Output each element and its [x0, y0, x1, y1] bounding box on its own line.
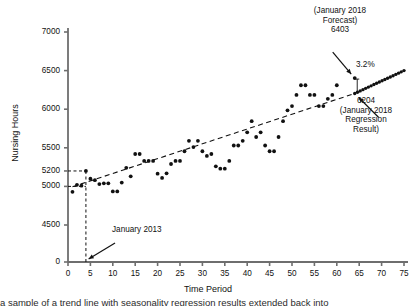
annotation-percent-difference: 3.2% [356, 60, 388, 70]
x-tick-label: 0 [56, 269, 80, 278]
y-tick-label: 6500 [0, 66, 60, 75]
data-point [115, 190, 119, 194]
data-point [259, 130, 263, 134]
data-point [120, 181, 124, 185]
x-tick-label: 30 [190, 269, 214, 278]
x-tick-label: 25 [168, 269, 192, 278]
data-point [295, 93, 299, 97]
data-point [165, 171, 169, 175]
data-point [254, 135, 258, 139]
x-tick-label: 60 [325, 269, 349, 278]
y-tick-label: 5000 [0, 181, 60, 190]
data-point [93, 178, 97, 182]
data-point [138, 152, 142, 156]
y-tick-label: 7000 [0, 27, 60, 36]
x-axis-title: Time Period [0, 284, 416, 294]
x-tick-label: 35 [213, 269, 237, 278]
data-point [308, 93, 312, 97]
data-point [196, 139, 200, 143]
data-point [250, 119, 254, 123]
data-point [335, 83, 339, 87]
chart-canvas [0, 0, 416, 306]
data-point [80, 184, 84, 188]
data-point [102, 181, 106, 185]
trend-line-layer [72, 93, 354, 186]
x-tick-label: 50 [280, 269, 304, 278]
data-point [106, 181, 110, 185]
data-point [156, 172, 160, 176]
data-point [277, 135, 281, 139]
x-tick-label: 40 [235, 269, 259, 278]
data-point [97, 182, 101, 186]
page-caption-text: a sample of a trend line with seasonalit… [0, 297, 416, 306]
data-point [214, 164, 218, 168]
data-point [71, 190, 75, 194]
x-tick-label: 15 [123, 269, 147, 278]
data-point [299, 83, 303, 87]
data-point [205, 154, 209, 158]
data-point [133, 152, 137, 156]
chart-figure: Nursing Hours Time Period (January 2018 … [0, 0, 416, 306]
annotation-january-2013: January 2013 [112, 225, 186, 235]
data-point [192, 145, 196, 149]
data-point [290, 104, 294, 108]
x-tick-label: 10 [101, 269, 125, 278]
data-point [232, 144, 236, 148]
data-point [241, 139, 245, 143]
annotation-january-2018-regression-result: 6204 (January 2018 Regression Result) [318, 96, 414, 134]
data-point [218, 167, 222, 171]
x-tick-label: 5 [78, 269, 102, 278]
data-point [142, 159, 146, 163]
data-point [183, 149, 187, 153]
data-point [187, 139, 191, 143]
data-point [75, 183, 79, 187]
data-point [272, 149, 276, 153]
data-point [84, 169, 88, 173]
x-tick-label: 55 [302, 269, 326, 278]
x-tick-label: 20 [146, 269, 170, 278]
y-tick-label: 6000 [0, 104, 60, 113]
data-point [169, 162, 173, 166]
y-tick-label: 5500 [0, 143, 60, 152]
data-point [286, 108, 290, 112]
data-point [281, 119, 285, 123]
data-point [263, 144, 267, 148]
data-point [304, 83, 308, 87]
data-point [268, 149, 272, 153]
data-point [124, 166, 128, 170]
data-point [209, 152, 213, 156]
data-point [178, 159, 182, 163]
x-tick-label: 45 [258, 269, 282, 278]
x-tick-label: 65 [347, 269, 371, 278]
y-tick-label: 5200 [0, 166, 60, 175]
data-point [227, 159, 231, 163]
data-point [223, 167, 227, 171]
y-tick-label: 4500 [0, 220, 60, 229]
data-point [201, 149, 205, 153]
data-point [111, 190, 115, 194]
x-tick-label: 70 [370, 269, 394, 278]
data-point [236, 144, 240, 148]
y-tick-label: 0 [0, 257, 60, 266]
annotation-january-2018-forecast: (January 2018 Forecast) 6403 [284, 6, 396, 35]
data-point [174, 159, 178, 163]
data-point [147, 159, 151, 163]
data-point [245, 130, 249, 134]
data-point [313, 93, 317, 97]
x-tick-label: 75 [392, 269, 416, 278]
data-point [129, 174, 133, 178]
data-point [89, 177, 93, 181]
data-point [160, 176, 164, 180]
data-point [151, 159, 155, 163]
